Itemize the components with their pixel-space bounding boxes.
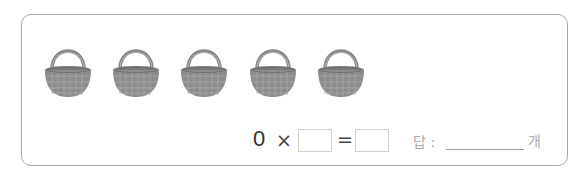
basket-icon bbox=[317, 39, 365, 99]
result-input[interactable] bbox=[355, 129, 389, 152]
first-operand: 0 bbox=[253, 126, 265, 152]
basket-icon bbox=[112, 39, 160, 99]
multiply-sign: × bbox=[276, 129, 292, 151]
equals-sign: = bbox=[337, 128, 353, 150]
basket-icon bbox=[44, 39, 92, 99]
answer-blank[interactable] bbox=[446, 149, 524, 150]
basket-icon bbox=[249, 39, 297, 99]
second-operand-input[interactable] bbox=[298, 129, 332, 152]
basket-icon bbox=[180, 39, 228, 99]
answer-label: 답 : bbox=[413, 131, 435, 151]
answer-unit: 개 bbox=[528, 130, 541, 150]
